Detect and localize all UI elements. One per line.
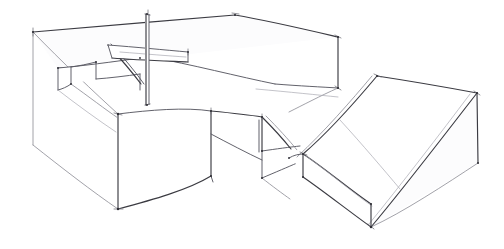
vertex-dot	[261, 116, 263, 118]
vertex-dot	[234, 14, 236, 16]
vertex-dot	[288, 157, 290, 159]
vertex-dot	[261, 150, 263, 152]
vertex-dot	[302, 176, 304, 178]
ramp-wedge	[289, 76, 478, 227]
vertex-dot	[370, 203, 372, 205]
step-pocket-face	[211, 111, 262, 176]
vertex-dot	[376, 75, 378, 77]
step-pocket-diagonal-right	[262, 117, 291, 149]
vertex-dot	[95, 61, 97, 63]
step-pocket-diagonal-right-2	[266, 116, 297, 150]
vertex-dot	[32, 31, 34, 33]
vertex-dot	[302, 153, 304, 155]
vertex-dot	[261, 177, 263, 179]
edge-platform-front-lip-right-2	[275, 84, 338, 88]
vertex-dot	[117, 113, 119, 115]
vertex-dot	[146, 13, 148, 15]
vertex-dot	[210, 175, 212, 177]
isometric-sketch-svg: Isometric freehand sketch of a stepped b…	[0, 0, 504, 249]
sketch-canvas: Isometric freehand sketch of a stepped b…	[0, 0, 504, 249]
vertex-dot	[70, 83, 72, 85]
rib-wall	[145, 10, 150, 105]
vertex-dot	[57, 67, 59, 69]
vertex-dot	[117, 208, 119, 210]
vertex-dot	[476, 92, 478, 94]
step-pocket	[211, 111, 300, 199]
step-pocket-diagonal-bottom	[262, 178, 290, 199]
vertex-dot	[337, 36, 339, 38]
vertex-dot	[370, 226, 372, 228]
main-block-faces	[33, 15, 338, 209]
vertex-dot	[337, 87, 339, 89]
overshoot-rear-peak	[232, 13, 239, 14]
vertex-dot	[187, 51, 189, 53]
vertex-dot	[477, 162, 479, 164]
vertex-dot	[139, 57, 141, 59]
slot-floor-near-edge	[58, 84, 71, 90]
vertex-dot	[146, 104, 148, 106]
vertex-dot	[210, 110, 212, 112]
step-pocket-inner-ledge-lower	[262, 163, 297, 178]
